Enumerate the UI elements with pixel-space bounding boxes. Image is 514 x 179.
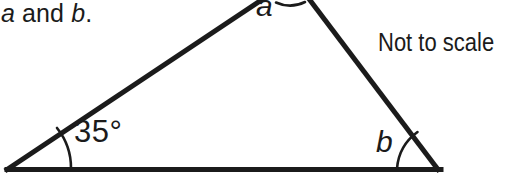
- angle-arc-apex: [276, 2, 305, 6]
- triangle-figure: a and b. Not to scale 35° a b: [0, 0, 514, 179]
- prompt-conjunction: and: [15, 0, 71, 27]
- prompt-variable-a: a: [1, 0, 15, 27]
- angle-label-b: b: [376, 127, 393, 157]
- angle-label-a: a: [256, 0, 273, 21]
- prompt-text: a and b.: [1, 1, 92, 26]
- angle-label-35-degrees: 35°: [74, 116, 122, 147]
- prompt-variable-b: b: [71, 0, 85, 27]
- triangle-right-side: [297, 0, 438, 170]
- prompt-terminator: .: [85, 0, 92, 27]
- not-to-scale-note: Not to scale: [378, 30, 494, 55]
